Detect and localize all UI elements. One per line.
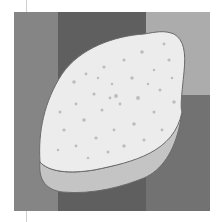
guide-line-bottom: [26, 211, 27, 222]
lemon-shaped-slice: [14, 12, 210, 211]
guide-line-top: [26, 0, 27, 12]
photo-panel: [14, 12, 210, 211]
